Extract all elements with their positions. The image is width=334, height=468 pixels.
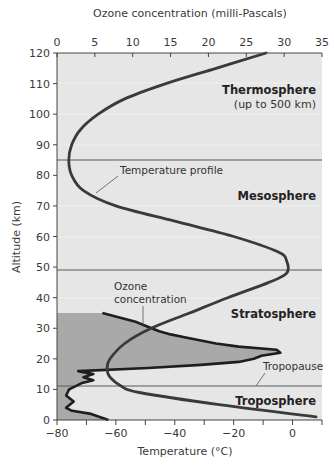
altitude-tick-label: 10: [36, 383, 50, 396]
ozone-tick-label: 30: [277, 36, 291, 49]
temperature-tick-label: −80: [45, 427, 68, 440]
layer-note-thermosphere: (up to 500 km): [234, 98, 316, 111]
temperature-tick-label: 0: [289, 427, 296, 440]
layer-label-troposphere: Troposphere: [235, 394, 316, 408]
ozone-tick-label: 15: [164, 36, 178, 49]
altitude-tick-label: 110: [29, 78, 50, 91]
layer-label-thermosphere: Thermosphere: [222, 83, 316, 97]
annotation-temperature-profile: Temperature profile: [119, 164, 223, 176]
temperature-tick-label: −40: [163, 427, 186, 440]
atmosphere-chart: 0102030405060708090100110120051015202530…: [0, 0, 334, 468]
top-axis-title: Ozone concentration (milli-Pascals): [93, 7, 287, 20]
annotation-ozone-line2: concentration: [114, 293, 187, 305]
altitude-tick-label: 80: [36, 169, 50, 182]
ozone-tick-label: 20: [201, 36, 215, 49]
altitude-tick-label: 40: [36, 292, 50, 305]
left-axis-title: Altitude (km): [10, 201, 23, 273]
bottom-axis-title: Temperature (°C): [137, 445, 233, 458]
altitude-tick-label: 120: [29, 47, 50, 60]
ozone-tick-label: 35: [315, 36, 329, 49]
ozone-tick-label: 0: [54, 36, 61, 49]
ozone-tick-label: 25: [239, 36, 253, 49]
altitude-tick-label: 70: [36, 200, 50, 213]
altitude-tick-label: 30: [36, 322, 50, 335]
ozone-tick-label: 5: [91, 36, 98, 49]
ozone-tick-label: 10: [126, 36, 140, 49]
altitude-tick-label: 90: [36, 139, 50, 152]
annotation-tropopause: Tropopause: [262, 360, 323, 372]
temperature-tick-label: −60: [104, 427, 127, 440]
temperature-tick-label: −20: [222, 427, 245, 440]
altitude-tick-label: 60: [36, 231, 50, 244]
altitude-tick-label: 20: [36, 353, 50, 366]
altitude-tick-label: 100: [29, 108, 50, 121]
annotation-ozone-line1: Ozone: [114, 280, 147, 292]
layer-label-mesosphere: Mesosphere: [237, 189, 316, 203]
altitude-tick-label: 0: [43, 414, 50, 427]
layer-label-stratosphere: Stratosphere: [231, 307, 316, 321]
altitude-tick-label: 50: [36, 261, 50, 274]
